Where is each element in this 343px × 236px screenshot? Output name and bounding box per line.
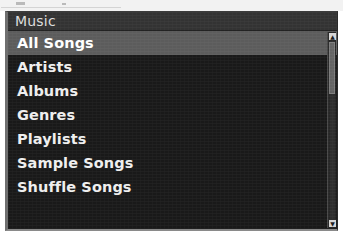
menu-item-label: Albums [17,83,78,99]
scroll-down-arrow-icon[interactable]: ▼ [329,220,336,227]
menu-item-label: Playlists [17,131,86,147]
artifact-speck [62,3,66,5]
artifact-speck [1,7,121,8]
menu-item-label: Artists [17,59,72,75]
scroll-up-arrow-icon[interactable]: ▲ [329,33,336,40]
menu-item-label: All Songs [17,35,94,51]
menu-item-all-songs[interactable]: All Songs [8,31,337,55]
artifact-speck [16,2,25,5]
panel-header: Music [8,12,337,31]
menu-item-shuffle-songs[interactable]: Shuffle Songs [8,175,337,199]
background-strip [0,0,343,11]
menu-item-label: Genres [17,107,75,123]
menu-item-playlists[interactable]: Playlists [8,127,337,151]
music-menu-list: All Songs Artists Albums Genres Playlist… [8,31,337,199]
menu-item-label: Sample Songs [17,155,134,171]
menu-item-label: Shuffle Songs [17,179,132,195]
menu-item-albums[interactable]: Albums [8,79,337,103]
menu-item-sample-songs[interactable]: Sample Songs [8,151,337,175]
scrollbar-thumb[interactable] [329,42,335,94]
vertical-scrollbar[interactable]: ▲ ▼ [327,32,336,228]
music-menu-panel: Music All Songs Artists Albums Genres Pl… [5,11,338,231]
panel-title: Music [8,14,56,28]
menu-item-genres[interactable]: Genres [8,103,337,127]
menu-item-artists[interactable]: Artists [8,55,337,79]
